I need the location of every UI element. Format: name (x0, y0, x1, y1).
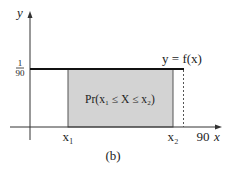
probability-region-label: Pr(x₁ ≤ X ≤ x₂) (85, 93, 155, 106)
upper-bound-tick-label: 90 (197, 129, 210, 144)
y-axis-label: y (15, 5, 23, 20)
density-height-denominator: 90 (16, 68, 26, 78)
x2-tick-label: x₂ (167, 129, 178, 144)
figure-caption: (b) (105, 148, 120, 163)
density-height-numerator: 1 (18, 58, 23, 68)
x-axis-label: x (213, 129, 220, 144)
y-axis-arrow-icon (28, 11, 33, 18)
x1-tick-label: x₁ (62, 129, 73, 144)
density-function-label: y = f(x) (162, 51, 202, 66)
uniform-density-diagram: y x 1 90 y = f(x) Pr(x₁ ≤ X ≤ x₂) x₁ x₂ … (0, 0, 225, 174)
